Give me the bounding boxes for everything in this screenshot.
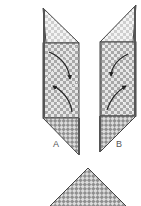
strip-a-bottom-triangle [43,118,79,155]
strip-b-top-triangle [100,5,136,42]
strip-a-body [43,43,79,118]
origami-diagram [0,0,141,206]
label-b: B [116,139,122,149]
strip-b [100,5,136,152]
strip-a-top-triangle [43,8,79,43]
strip-a [43,8,79,155]
label-a: A [53,139,59,149]
strip-b-body [100,42,136,116]
bottom-triangle [48,168,128,206]
